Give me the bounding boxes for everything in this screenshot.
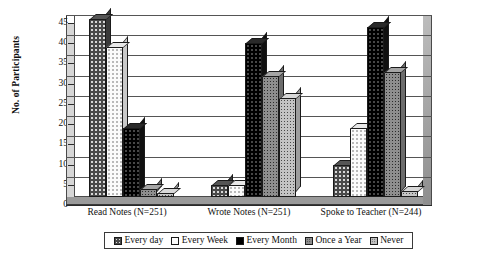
bar [333, 165, 350, 197]
plot-area [66, 15, 432, 205]
bar-face [367, 27, 384, 197]
bar-series-container [66, 15, 432, 205]
bar-face [228, 185, 245, 197]
y-axis-title: No. of Participants [11, 10, 25, 140]
bar [228, 185, 245, 197]
bar-face [333, 165, 350, 197]
bar-group [211, 15, 296, 197]
bar-top-face [157, 188, 181, 194]
bar [279, 98, 296, 197]
y-tick-label: 10 [48, 160, 68, 170]
bar-face [106, 47, 123, 197]
y-tick-mark [68, 124, 74, 125]
legend-label: Every Week [182, 236, 228, 246]
legend-item: Every day [114, 236, 163, 246]
y-axis-ticks: 454035302520151050 [46, 15, 68, 213]
y-tick-mark [68, 63, 74, 64]
black-swatch [236, 237, 244, 245]
bar-face [350, 128, 367, 197]
bar [262, 76, 279, 197]
y-tick-mark [68, 144, 74, 145]
bar-face [262, 76, 279, 197]
x-axis-labels: Read Notes (N=251)Wrote Notes (N=251)Spo… [66, 207, 432, 223]
legend-item: Every Week [171, 236, 228, 246]
bar-side-face [401, 61, 406, 192]
y-tick-label: 20 [48, 119, 68, 129]
y-tick-mark [68, 205, 74, 206]
bar-side-face [296, 87, 301, 192]
bar [350, 128, 367, 197]
bar-face [211, 185, 228, 197]
y-tick-label: 30 [48, 79, 68, 89]
y-tick-label: 0 [48, 200, 68, 210]
white-swatch [171, 237, 179, 245]
y-tick-label: 15 [48, 139, 68, 149]
y-tick-label: 35 [48, 58, 68, 68]
gray-dotted-swatch [305, 237, 313, 245]
y-tick-label: 40 [48, 38, 68, 48]
legend-label: Never [380, 236, 403, 246]
y-tick-label: 25 [48, 99, 68, 109]
chart-legend: Every dayEvery WeekEvery MonthOnce a Yea… [104, 232, 413, 249]
y-tick-mark [68, 165, 74, 166]
x-axis-line [66, 205, 432, 206]
y-tick-mark [68, 23, 74, 24]
y-tick-label: 5 [48, 180, 68, 190]
dark-dotted-swatch [114, 237, 122, 245]
legend-item: Never [370, 236, 404, 246]
bar-face [123, 128, 140, 197]
bar [367, 27, 384, 197]
bar-face [245, 43, 262, 197]
legend-label: Once a Year [315, 236, 361, 246]
x-axis-label: Spoke to Teacher (N=244) [310, 207, 432, 217]
legend-label: Every day [125, 236, 164, 246]
bar [89, 19, 106, 197]
light-gray-dotted-swatch [370, 237, 378, 245]
bar [245, 43, 262, 197]
y-tick-mark [68, 43, 74, 44]
bar-group [333, 15, 418, 197]
x-axis-label: Wrote Notes (N=251) [188, 207, 310, 217]
bar-face [140, 189, 157, 197]
bar [140, 189, 157, 197]
bar [211, 185, 228, 197]
y-tick-mark [68, 185, 74, 186]
bar [384, 72, 401, 197]
bar-group [89, 15, 174, 197]
legend-label: Every Month [247, 236, 297, 246]
y-tick-mark [68, 104, 74, 105]
legend-item: Once a Year [305, 236, 362, 246]
bar-face [89, 19, 106, 197]
y-tick-label: 45 [48, 18, 68, 28]
legend-item: Every Month [236, 236, 297, 246]
y-tick-mark [68, 84, 74, 85]
x-axis-label: Read Notes (N=251) [66, 207, 188, 217]
bar [123, 128, 140, 197]
bar-chart: No. of Participants 454035302520151050 R… [0, 0, 490, 262]
bar [401, 191, 418, 197]
bar [106, 47, 123, 197]
bar-face [279, 98, 296, 197]
bar [157, 193, 174, 197]
bar-face [384, 72, 401, 197]
